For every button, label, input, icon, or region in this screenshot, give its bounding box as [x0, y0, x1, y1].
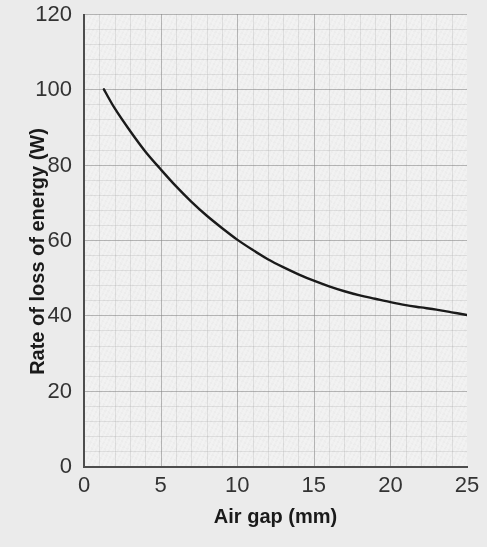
x-tick-label: 5 — [154, 472, 166, 498]
y-tick-label: 0 — [60, 453, 72, 479]
y-tick-label: 40 — [48, 302, 72, 328]
x-tick-label: 10 — [225, 472, 249, 498]
x-tick-label: 15 — [302, 472, 326, 498]
plot-area — [84, 14, 467, 466]
series-line-rate-of-loss-of-energy — [104, 89, 467, 315]
y-tick-label: 20 — [48, 378, 72, 404]
x-axis-spine — [83, 466, 468, 468]
y-tick-label: 120 — [35, 1, 72, 27]
y-axis-spine — [83, 14, 85, 467]
curve-svg — [84, 14, 467, 466]
y-tick-label: 60 — [48, 227, 72, 253]
x-axis-title: Air gap (mm) — [84, 505, 467, 528]
chart-figure: 020406080100120 0510152025 Rate of loss … — [0, 0, 487, 547]
x-tick-label: 25 — [455, 472, 479, 498]
y-axis-title: Rate of loss of energy (W) — [26, 32, 49, 472]
y-tick-label: 80 — [48, 152, 72, 178]
x-tick-label: 0 — [78, 472, 90, 498]
x-tick-label: 20 — [378, 472, 402, 498]
